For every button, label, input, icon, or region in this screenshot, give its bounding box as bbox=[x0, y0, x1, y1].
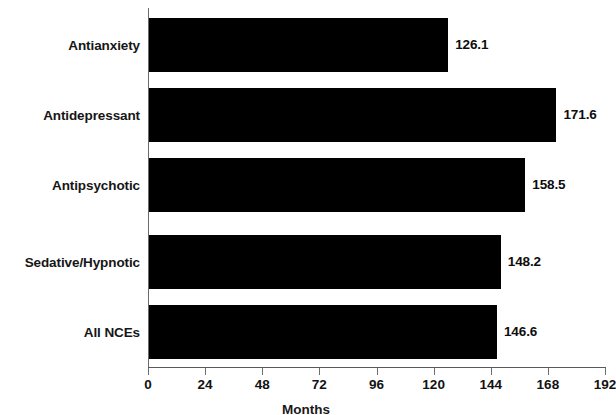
x-tick-168 bbox=[548, 368, 549, 375]
bar-antipsychotic bbox=[148, 158, 525, 212]
bar-value-sedative-hypnotic: 148.2 bbox=[508, 254, 541, 269]
category-label-sedative-hypnotic: Sedative/Hypnotic bbox=[0, 255, 140, 270]
x-tick-label-0: 0 bbox=[144, 377, 152, 392]
x-tick-label-72: 72 bbox=[312, 377, 327, 392]
bar-value-antipsychotic: 158.5 bbox=[532, 177, 565, 192]
plot-area: 126.1 171.6 158.5 148.2 146.6 bbox=[148, 8, 605, 367]
bar-sedative-hypnotic bbox=[148, 235, 501, 289]
bar-antianxiety bbox=[148, 18, 448, 72]
bar-value-antianxiety: 126.1 bbox=[455, 37, 488, 52]
category-label-all-nces: All NCEs bbox=[0, 325, 140, 340]
bar-all-nces bbox=[148, 305, 497, 359]
x-tick-72 bbox=[319, 368, 320, 375]
x-tick-label-144: 144 bbox=[479, 377, 502, 392]
x-axis-title: Months bbox=[0, 402, 612, 415]
x-tick-label-192: 192 bbox=[594, 377, 616, 392]
x-tick-0 bbox=[148, 368, 149, 375]
x-tick-label-168: 168 bbox=[537, 377, 560, 392]
x-tick-label-48: 48 bbox=[255, 377, 270, 392]
x-tick-label-96: 96 bbox=[369, 377, 384, 392]
x-tick-48 bbox=[262, 368, 263, 375]
bar-value-all-nces: 146.6 bbox=[504, 324, 537, 339]
category-label-antidepressant: Antidepressant bbox=[0, 108, 140, 123]
x-tick-24 bbox=[205, 368, 206, 375]
x-tick-96 bbox=[377, 368, 378, 375]
x-tick-label-24: 24 bbox=[198, 377, 213, 392]
x-tick-144 bbox=[491, 368, 492, 375]
bar-antidepressant bbox=[148, 88, 556, 142]
category-label-antianxiety: Antianxiety bbox=[0, 38, 140, 53]
category-label-antipsychotic: Antipsychotic bbox=[0, 178, 140, 193]
y-axis-line bbox=[148, 8, 149, 367]
x-tick-192 bbox=[605, 368, 606, 375]
x-tick-120 bbox=[434, 368, 435, 375]
x-tick-label-120: 120 bbox=[422, 377, 445, 392]
bar-value-antidepressant: 171.6 bbox=[563, 107, 596, 122]
